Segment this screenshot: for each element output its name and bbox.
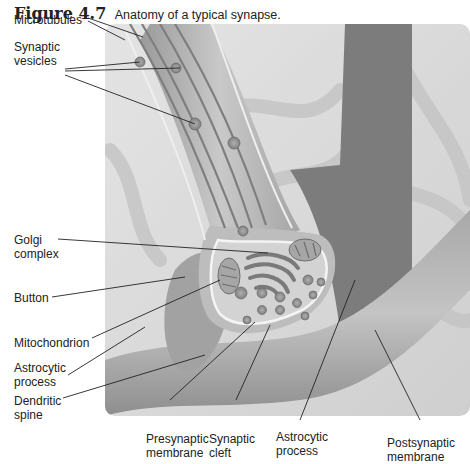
label-line: process <box>14 375 66 389</box>
label-line: complex <box>14 247 59 261</box>
label-line: cleft <box>209 446 255 460</box>
label-synaptic-cleft: Synaptic cleft <box>209 432 255 460</box>
label-postsynaptic-membrane: Postsynaptic membrane <box>387 436 455 464</box>
label-line: Postsynaptic <box>387 436 455 450</box>
label-line: Dendritic <box>14 394 61 408</box>
label-golgi-complex: Golgi complex <box>14 233 59 261</box>
label-line: membrane <box>146 446 209 460</box>
label-line: Astrocytic <box>276 430 328 444</box>
label-line: Golgi <box>14 233 59 247</box>
illustration-panel <box>105 24 470 416</box>
label-mitochondrion: Mitochondrion <box>14 336 89 350</box>
label-line: Synaptic <box>14 40 60 54</box>
label-presynaptic-membrane: Presynaptic membrane <box>146 432 209 460</box>
label-line: Synaptic <box>209 432 255 446</box>
label-astrocytic-process-left: Astrocytic process <box>14 361 66 389</box>
label-microtubules: Microtubules <box>14 13 82 27</box>
label-line: process <box>276 444 328 458</box>
label-line: spine <box>14 408 61 422</box>
label-line: Astrocytic <box>14 361 66 375</box>
label-line: Presynaptic <box>146 432 209 446</box>
label-dendritic-spine: Dendritic spine <box>14 394 61 422</box>
label-astrocytic-process-bottom: Astrocytic process <box>276 430 328 458</box>
label-line: membrane <box>387 450 455 464</box>
label-synaptic-vesicles: Synaptic vesicles <box>14 40 60 68</box>
label-line: vesicles <box>14 54 60 68</box>
label-button: Button <box>14 291 49 305</box>
